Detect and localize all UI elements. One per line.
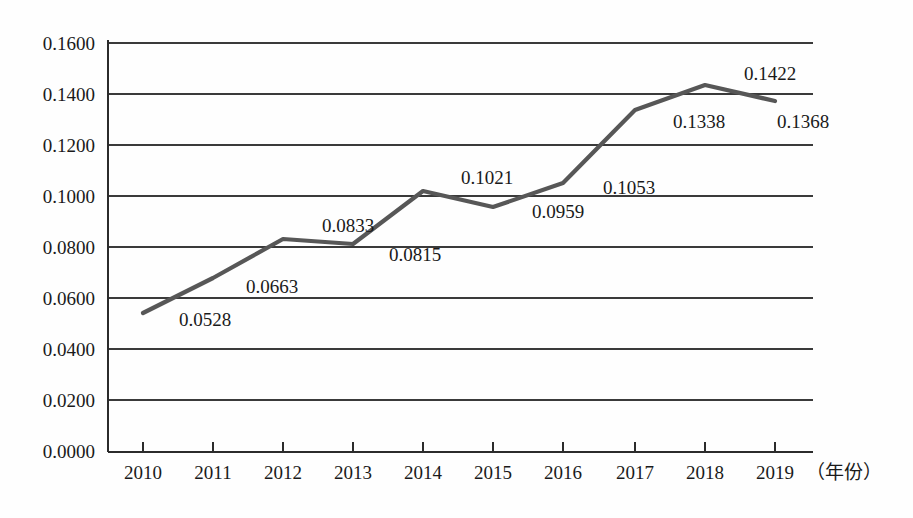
x-tick-label-2017: 2017 (616, 462, 654, 483)
gridlines (108, 43, 813, 400)
data-label-2013: 0.0815 (389, 244, 441, 265)
data-label-2018: 0.1422 (744, 63, 796, 84)
y-tick-label-7: 0.1400 (43, 84, 95, 105)
data-label-2011: 0.0663 (246, 276, 298, 297)
x-tick-labels: 2010 2011 2012 2013 2014 2015 2016 2017 … (124, 462, 794, 483)
x-tick-label-2018: 2018 (686, 462, 724, 483)
data-label-2012: 0.0833 (322, 215, 374, 236)
data-label-2010: 0.0528 (179, 309, 231, 330)
data-label-2017: 0.1338 (673, 111, 725, 132)
x-tick-label-2012: 2012 (264, 462, 302, 483)
y-tick-label-6: 0.1200 (43, 135, 95, 156)
data-label-2015: 0.0959 (532, 201, 584, 222)
data-label-2016: 0.1053 (603, 177, 655, 198)
x-tick-label-2019: 2019 (756, 462, 794, 483)
x-tick-marks (143, 442, 775, 452)
line-chart: 0.1600 0.1400 0.1200 0.1000 0.0800 0.060… (0, 0, 913, 518)
x-axis-caption: （年份） (806, 462, 882, 483)
x-tick-label-2013: 2013 (334, 462, 372, 483)
x-tick-label-2011: 2011 (194, 462, 231, 483)
axes (108, 40, 813, 452)
data-label-2014: 0.1021 (461, 167, 513, 188)
data-label-2019: 0.1368 (777, 111, 829, 132)
y-tick-label-5: 0.1000 (43, 186, 95, 207)
y-tick-label-8: 0.1600 (43, 33, 95, 54)
y-tick-label-0: 0.0000 (43, 441, 95, 462)
y-tick-labels: 0.1600 0.1400 0.1200 0.1000 0.0800 0.060… (43, 33, 95, 462)
x-tick-label-2014: 2014 (404, 462, 443, 483)
y-tick-label-4: 0.0800 (43, 237, 95, 258)
y-tick-label-1: 0.0200 (43, 390, 95, 411)
x-tick-label-2016: 2016 (544, 462, 582, 483)
x-tick-label-2010: 2010 (124, 462, 162, 483)
y-tick-label-3: 0.0600 (43, 288, 95, 309)
y-tick-label-2: 0.0400 (43, 339, 95, 360)
chart-canvas: 0.1600 0.1400 0.1200 0.1000 0.0800 0.060… (0, 0, 913, 518)
x-tick-label-2015: 2015 (474, 462, 512, 483)
